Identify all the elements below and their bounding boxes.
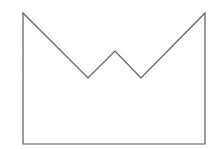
w-envelope-outline-shape (23, 13, 205, 144)
diagram-canvas (0, 0, 220, 149)
